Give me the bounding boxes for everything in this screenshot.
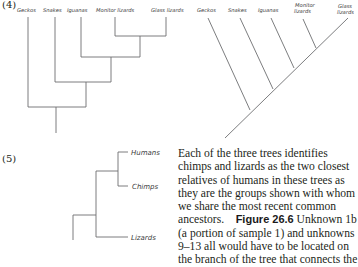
right-tree-label-geckos: Geckos <box>197 7 216 13</box>
body-paragraph: Each of the three trees identifies chimp… <box>178 147 358 267</box>
right-tree-labels: Geckos Snakes Iguanas Monitor lizards Gl… <box>197 2 354 15</box>
left-tree-labels: Geckos Snakes Iguanas Monitor lizards Gl… <box>17 7 184 14</box>
paragraph-line: 9–13 all would have to be located on <box>178 240 358 253</box>
left-tree-label-snakes: Snakes <box>43 7 62 13</box>
left-tree-label-iguanas: Iguanas <box>67 7 88 14</box>
right-tree-branches <box>208 18 348 138</box>
tree5-branches <box>73 152 128 240</box>
right-tree-label-snakes: Snakes <box>228 7 247 13</box>
tree5-label-humans: Humans <box>131 149 160 157</box>
paragraph-line: they are the groups shown with whom <box>178 187 358 200</box>
paragraph-text: ancestors. <box>178 213 224 226</box>
paragraph-line: the branch of the tree that connects the <box>178 253 358 266</box>
paragraph-line: we share the most recent common <box>178 200 358 213</box>
paragraph-line: (a portion of sample 1) and unknowns <box>178 227 358 240</box>
tree5-label-chimps: Chimps <box>132 183 159 191</box>
left-tree-label-geckos: Geckos <box>17 7 36 13</box>
paragraph-line: relatives of humans in these trees as <box>178 174 358 187</box>
left-tree-label-monitor-lizards: Monitor lizards <box>96 7 135 13</box>
left-tree-branches <box>28 17 166 133</box>
right-tree-label-iguanas: Iguanas <box>258 7 279 14</box>
paragraph-text: Unknown 1b <box>294 213 357 226</box>
tree5-labels: Humans Chimps Lizards <box>131 149 160 240</box>
figure-reference-link[interactable]: Figure 26.6 <box>236 213 294 225</box>
paragraph-line: chimps and lizards as the two closest <box>178 160 358 173</box>
paragraph-line-with-figure-ref: ancestors. Figure 26.6 Unknown 1b <box>178 213 358 226</box>
right-tree-label-glass-lizards: lizards <box>337 9 354 15</box>
right-tree-label-monitor-lizards: lizards <box>294 8 311 14</box>
paragraph-line: Each of the three trees identifies <box>178 147 358 160</box>
tree5-label-lizards: Lizards <box>131 234 156 240</box>
left-tree-label-glass-lizards: Glass lizards <box>151 7 184 13</box>
